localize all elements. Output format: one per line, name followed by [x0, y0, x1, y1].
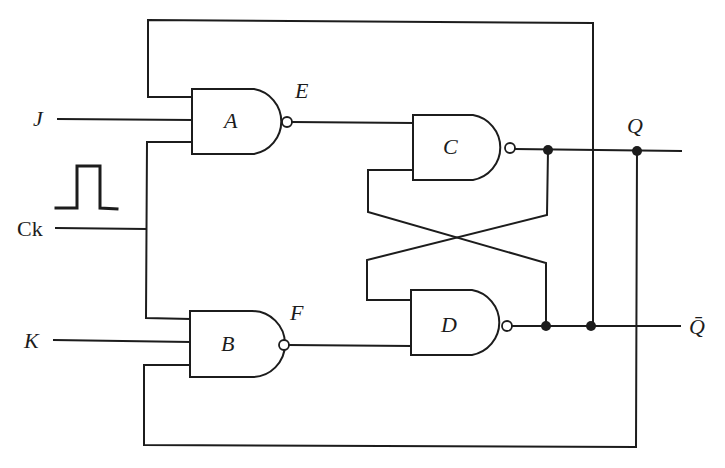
label-gate-d: D	[440, 312, 457, 337]
clock-bus-wire	[146, 142, 192, 319]
gate-d-output-bubble	[502, 321, 512, 331]
label-q: Q	[627, 113, 643, 138]
f-wire	[289, 345, 411, 346]
label-q-bar: Q̄	[689, 314, 705, 339]
junction-dot-qbar-feedback	[586, 321, 596, 331]
nand-gate-b	[190, 311, 285, 377]
feedback-wire-qbar-to-a	[148, 20, 593, 326]
label-ck: Ck	[17, 216, 43, 241]
gate-a-output-bubble	[282, 117, 292, 127]
j-input-wire	[58, 119, 192, 120]
jk-flip-flop-diagram: J Ck K A B C D E F Q Q̄	[0, 0, 725, 468]
q-output-wire	[515, 149, 681, 151]
label-f: F	[289, 300, 304, 325]
junction-dot-qbar-cross	[541, 321, 551, 331]
e-wire	[292, 122, 413, 123]
label-k: K	[23, 328, 40, 353]
label-gate-b: B	[221, 331, 234, 356]
gate-c-output-bubble	[505, 143, 515, 153]
junction-dot-q-cross	[543, 145, 553, 155]
label-gate-c: C	[443, 134, 458, 159]
label-gate-a: A	[222, 108, 238, 133]
k-input-wire	[54, 340, 190, 342]
gate-b-output-bubble	[279, 340, 289, 350]
feedback-wire-q-to-b	[144, 150, 637, 447]
label-j: J	[33, 106, 44, 131]
junction-dot-q-feedback	[632, 146, 642, 156]
label-e: E	[294, 78, 309, 103]
ck-input-wire	[56, 228, 146, 229]
clock-pulse-icon	[56, 166, 117, 209]
